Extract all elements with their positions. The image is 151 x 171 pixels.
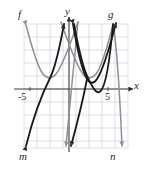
curve-label-f: f (18, 9, 21, 20)
x-tick-label-negative-5: -5 (18, 92, 26, 102)
x-tick-label-positive-5: 5 (105, 92, 110, 102)
graph-figure: f g m n y x -5 5 (0, 0, 151, 171)
curve-label-n: n (110, 151, 116, 162)
curve-label-g: g (108, 9, 114, 20)
coordinate-plot (0, 0, 151, 171)
axis-label-y: y (65, 6, 70, 17)
curve-label-m: m (19, 151, 27, 162)
axis-label-x: x (134, 80, 139, 91)
